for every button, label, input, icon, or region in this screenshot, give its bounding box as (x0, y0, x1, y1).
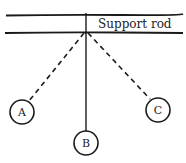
bob-c-label: C (154, 104, 162, 117)
rod-label: Support rod (98, 17, 172, 31)
string-a (29, 33, 84, 101)
bob-c: C (146, 98, 170, 122)
string-c (88, 33, 150, 99)
rod-top-edge (6, 14, 183, 16)
pendulum-diagram: Support rod A B C (0, 0, 186, 163)
bob-a-label: A (17, 106, 27, 119)
bob-b: B (74, 131, 98, 155)
rod-bottom-edge (5, 32, 183, 33)
bob-a: A (10, 100, 34, 124)
bob-b-label: B (82, 137, 90, 150)
